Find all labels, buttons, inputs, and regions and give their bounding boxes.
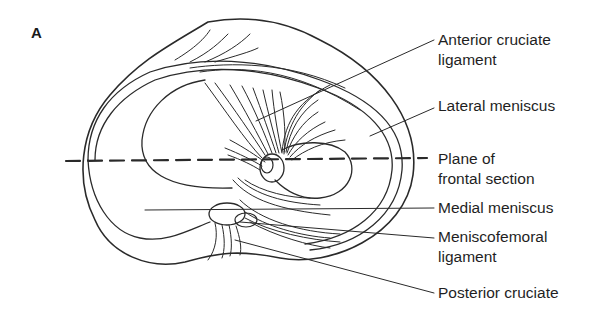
- meniscus-rim: [88, 61, 402, 250]
- leader-posterior-cruciate: [235, 240, 434, 293]
- label-anterior-cruciate-line1: Anterior cruciate: [438, 30, 551, 49]
- acl-fiber: [272, 90, 282, 153]
- mfl-insertion: [235, 213, 257, 227]
- panel-label: A: [31, 24, 42, 41]
- anterior-fiber: [200, 70, 360, 111]
- anterior-fiber: [190, 65, 345, 88]
- tibial-plateau-diagram: A Anterior cruciate ligament Lateral men…: [0, 0, 612, 321]
- pcl-fiber: [229, 225, 231, 256]
- acl-fiber: [225, 148, 262, 166]
- label-lateral-meniscus: Lateral meniscus: [438, 96, 555, 115]
- label-plane-line1: Plane of: [438, 149, 495, 168]
- posterior-fiber: [238, 178, 320, 205]
- label-plane-line2: frontal section: [438, 169, 535, 188]
- label-anterior-cruciate-line2: ligament: [438, 50, 497, 69]
- leader-lateral-meniscus: [370, 108, 434, 136]
- anterior-fiber: [175, 30, 210, 60]
- acl-fiber: [282, 85, 330, 152]
- leader-medial-meniscus: [145, 208, 434, 210]
- medial-rim-lower: [88, 160, 210, 239]
- label-medial-meniscus: Medial meniscus: [438, 198, 553, 217]
- pcl-fiber: [222, 225, 224, 258]
- label-meniscofemoral-line2: ligament: [438, 247, 497, 266]
- frontal-section-plane: [66, 158, 427, 161]
- medial-meniscus-inner: [142, 80, 232, 188]
- acl-fiber: [205, 83, 262, 158]
- anterior-fiber: [190, 34, 228, 62]
- label-posterior-cruciate: Posterior cruciate: [438, 283, 559, 302]
- posterior-fiber: [245, 218, 340, 242]
- acl-fiber: [290, 130, 335, 157]
- leader-acl: [256, 40, 434, 121]
- label-meniscofemoral-line1: Meniscofemoral: [438, 227, 547, 246]
